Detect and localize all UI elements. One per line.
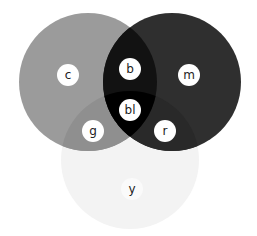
label-m-text: m xyxy=(183,68,195,82)
label-bl: bl xyxy=(119,99,141,121)
label-b-text: b xyxy=(126,62,134,76)
label-r-text: r xyxy=(163,124,168,138)
label-g-text: g xyxy=(89,124,97,138)
label-r: r xyxy=(154,120,176,142)
label-c: c xyxy=(57,64,79,86)
label-b: b xyxy=(119,58,141,80)
label-y: y xyxy=(121,178,143,200)
label-m: m xyxy=(178,64,200,86)
label-c-text: c xyxy=(65,68,72,82)
venn-diagram: c m b bl g r y xyxy=(0,0,257,236)
label-g: g xyxy=(82,120,104,142)
label-bl-text: bl xyxy=(125,103,136,117)
label-y-text: y xyxy=(128,182,135,196)
